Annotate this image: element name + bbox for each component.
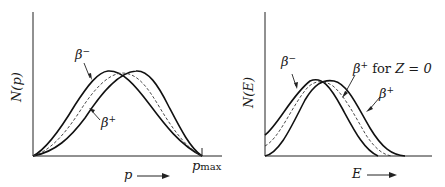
left-y-axis-label: N(p) [9, 72, 24, 102]
right-z0-arrowhead [342, 91, 348, 98]
right-z0-sign: + [361, 60, 369, 70]
left-beta-minus-sign: − [83, 46, 91, 56]
left-beta-plus-curve [33, 71, 202, 156]
right-beta-minus-curve [265, 80, 378, 156]
right-axes [265, 12, 432, 156]
right-beta-plus-sign: + [387, 85, 395, 95]
left-pmax-label: pmax [192, 158, 221, 173]
left-x-axis-label: p [124, 167, 132, 182]
left-dashed-curve [33, 73, 202, 156]
left-beta-plus-sign: + [109, 114, 117, 124]
left-beta-minus-symbol: β [75, 47, 83, 62]
right-x-axis-label: E [352, 166, 362, 181]
right-z0-condition: Z = 0 [395, 61, 431, 76]
right-beta-minus-symbol: β [281, 54, 289, 69]
right-dashed-curve [265, 82, 392, 156]
left-beta-minus-curve [33, 71, 202, 156]
right-beta-plus-label: β+ [379, 85, 394, 101]
right-beta-minus-label: β− [281, 53, 296, 69]
left-axes [33, 12, 222, 156]
right-beta-minus-sign: − [289, 53, 297, 63]
left-x-arrowhead [162, 173, 170, 179]
right-y-axis-label: N(E) [241, 77, 256, 108]
right-z0-for: for [372, 61, 391, 76]
pmax-sub: max [200, 161, 221, 172]
right-z0-label: β+ for Z = 0 [353, 60, 432, 76]
left-beta-plus-label: β+ [101, 114, 116, 130]
right-z0-symbol: β [353, 61, 361, 76]
left-beta-minus-pointer [84, 63, 90, 78]
left-beta-minus-arrowhead [88, 73, 92, 80]
left-beta-plus-symbol: β [101, 115, 109, 130]
left-beta-minus-label: β− [75, 46, 90, 62]
right-beta-minus-arrowhead [294, 82, 298, 89]
right-beta-plus-symbol: β [379, 86, 387, 101]
right-x-arrowhead [389, 172, 397, 178]
